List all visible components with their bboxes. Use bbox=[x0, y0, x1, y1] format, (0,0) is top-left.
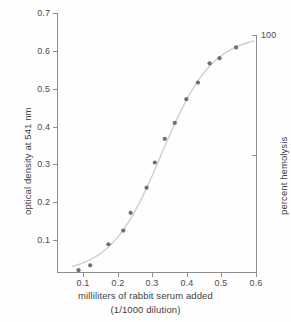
data-point bbox=[153, 160, 157, 164]
data-point bbox=[163, 137, 167, 141]
data-point bbox=[207, 61, 211, 65]
data-point bbox=[129, 211, 133, 215]
data-point bbox=[173, 121, 177, 125]
data-point bbox=[184, 97, 188, 101]
fit-curve bbox=[72, 41, 254, 267]
data-point-group bbox=[76, 45, 238, 272]
plot-data-layer bbox=[0, 0, 291, 322]
data-point bbox=[196, 80, 200, 84]
data-point bbox=[106, 242, 110, 246]
data-point bbox=[88, 263, 92, 267]
data-point bbox=[76, 268, 80, 272]
data-point bbox=[144, 186, 148, 190]
chart-figure: 0.7 0.6 0.5 0.4 0.3 0.2 0.1 0.1 0.2 0.3 … bbox=[0, 0, 291, 322]
data-point bbox=[217, 56, 221, 60]
data-point bbox=[234, 45, 238, 49]
data-point bbox=[121, 228, 125, 232]
